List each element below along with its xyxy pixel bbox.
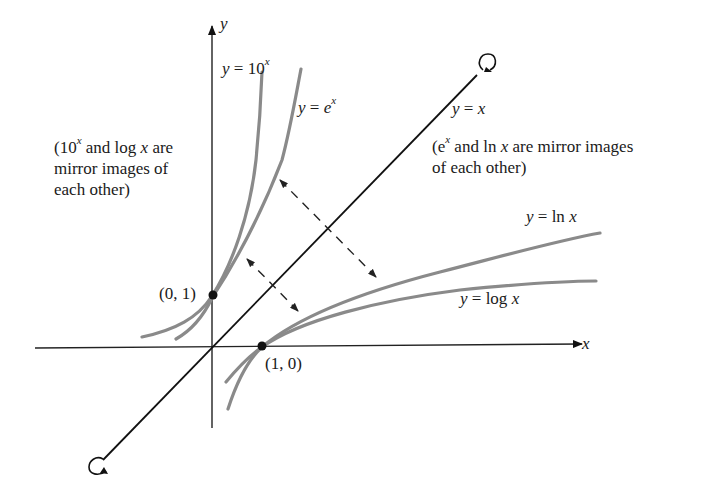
- point-0-1: [209, 291, 218, 300]
- label-ten-pow-x: y y == 10x: [222, 58, 270, 79]
- note-right-line2: of each other): [432, 157, 633, 178]
- label-identity: y = x: [452, 98, 485, 119]
- y-axis-label: y: [220, 13, 228, 34]
- rotate-icon-bottom: [89, 458, 108, 475]
- point-1-0: [258, 342, 267, 351]
- point-label-0-1: (0, 1): [159, 283, 196, 304]
- note-left-line1: (10x and log x are: [54, 137, 173, 158]
- note-right: (ex and ln x are mirror images of each o…: [432, 136, 633, 178]
- graph-canvas: [0, 0, 712, 501]
- note-left-line2: mirror images of: [54, 158, 173, 179]
- note-left-line3: each other): [54, 179, 173, 200]
- note-left: (10x and log x are mirror images of each…: [54, 137, 173, 200]
- rotate-icon-top: [479, 54, 495, 72]
- point-label-1-0: (1, 0): [265, 353, 302, 374]
- x-axis: [35, 344, 582, 348]
- label-log-x: y = log x: [460, 288, 519, 309]
- label-ln-x: y = ln x: [526, 206, 577, 227]
- label-exp-x: y = ex: [298, 97, 336, 118]
- x-axis-label: x: [582, 333, 590, 354]
- note-right-line1: (ex and ln x are mirror images: [432, 136, 633, 157]
